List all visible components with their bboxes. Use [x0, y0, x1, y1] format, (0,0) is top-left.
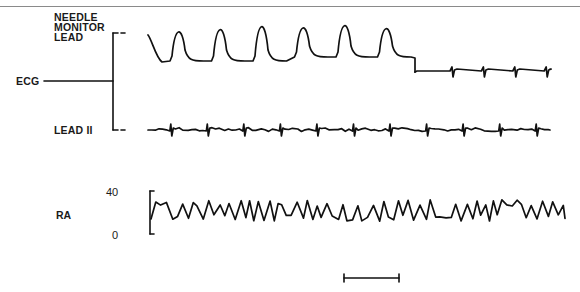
ra-pressure-trace [151, 200, 565, 221]
needle-monitor-lead-flat-trace [415, 67, 551, 77]
lead-ii-trace [148, 124, 550, 136]
chart-canvas [0, 0, 580, 292]
needle-monitor-lead-trace [148, 26, 415, 72]
